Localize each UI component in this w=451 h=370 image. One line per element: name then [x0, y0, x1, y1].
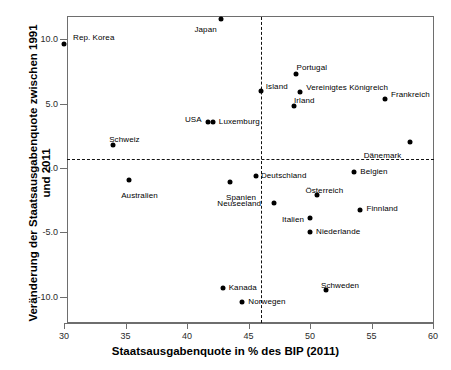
- data-point[interactable]: [240, 299, 245, 304]
- data-point[interactable]: [253, 173, 258, 178]
- x-tick-label: 30: [59, 331, 69, 341]
- data-point[interactable]: [220, 285, 225, 290]
- y-tick: [60, 104, 67, 105]
- x-tick: [433, 323, 434, 329]
- data-point[interactable]: [383, 96, 388, 101]
- data-point-label: Kanada: [229, 283, 257, 292]
- data-point-label: Vereinigtes Königreich: [306, 83, 388, 92]
- data-point[interactable]: [62, 42, 67, 47]
- scatter-plot-figure: 30354045505560 10.05.00.0-5.0-10.0 Rep. …: [0, 0, 451, 370]
- data-point[interactable]: [272, 200, 277, 205]
- y-tick: [60, 297, 67, 298]
- data-point-label: Irland: [294, 96, 315, 105]
- x-tick: [249, 323, 250, 329]
- data-point-label: Japan: [194, 25, 216, 34]
- x-tick-label: 40: [182, 331, 192, 341]
- x-tick: [126, 323, 127, 329]
- data-point-label: Luxemburg: [219, 117, 260, 126]
- data-point[interactable]: [228, 180, 233, 185]
- data-point-label: Portugal: [296, 63, 327, 72]
- data-point[interactable]: [127, 177, 132, 182]
- x-tick-label: 60: [428, 331, 438, 341]
- data-point[interactable]: [308, 216, 313, 221]
- data-point-label: Norwegen: [248, 297, 285, 306]
- x-tick: [64, 323, 65, 329]
- data-point-label: Rep. Korea: [73, 33, 114, 42]
- x-tick-label: 50: [305, 331, 315, 341]
- data-point-label: Österreich: [305, 186, 343, 195]
- data-point[interactable]: [308, 230, 313, 235]
- y-axis-title: Veränderung der Staatsausgabenquote zwis…: [27, 13, 53, 333]
- data-point-label: Deutschland: [261, 171, 307, 180]
- data-point[interactable]: [210, 119, 215, 124]
- data-point[interactable]: [352, 169, 357, 174]
- data-point-label: Neuseeland: [217, 199, 261, 208]
- data-point[interactable]: [407, 140, 412, 145]
- data-point[interactable]: [298, 90, 303, 95]
- y-axis-line: [67, 16, 68, 323]
- data-point[interactable]: [358, 208, 363, 213]
- data-point-label: Belgien: [360, 167, 387, 176]
- x-tick: [187, 323, 188, 329]
- data-point[interactable]: [294, 72, 299, 77]
- data-point-label: Italien: [282, 215, 304, 224]
- x-tick-label: 55: [366, 331, 376, 341]
- data-point-label: Schweden: [321, 281, 359, 290]
- x-tick-label: 35: [120, 331, 130, 341]
- data-point-label: Niederlande: [316, 227, 360, 236]
- data-point-label: Finnland: [366, 204, 398, 213]
- data-point-label: Dänemark: [364, 151, 402, 160]
- x-axis-title: Staatsausgabenquote in % des BIP (2011): [0, 345, 451, 357]
- data-point-label: Australien: [121, 191, 158, 200]
- y-tick: [60, 232, 67, 233]
- y-tick: [60, 39, 67, 40]
- data-point-label: Island: [266, 82, 288, 91]
- data-point-label: Frankreich: [391, 90, 430, 99]
- x-tick-label: 45: [243, 331, 253, 341]
- x-tick: [372, 323, 373, 329]
- data-point-label: USA: [185, 115, 202, 124]
- data-point[interactable]: [258, 88, 263, 93]
- data-point[interactable]: [219, 16, 224, 21]
- y-tick: [60, 168, 67, 169]
- x-tick: [310, 323, 311, 329]
- data-point-label: Schweiz: [109, 135, 140, 144]
